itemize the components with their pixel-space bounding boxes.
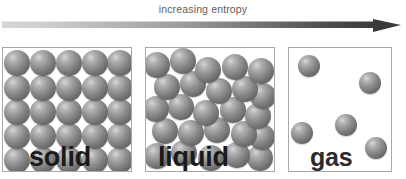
increasing-entropy-arrow [2, 19, 402, 33]
particle-sphere [248, 58, 274, 84]
label-gas: gas [310, 145, 352, 170]
particle-sphere [4, 50, 30, 76]
particle-sphere [365, 137, 387, 159]
particle-sphere [107, 123, 132, 149]
entropy-states-of-matter-figure: increasing entropy solid liquid [0, 0, 406, 179]
particle-sphere [4, 123, 30, 149]
arrow-head [373, 19, 401, 32]
particle-sphere [193, 100, 219, 126]
label-liquid: liquid [158, 144, 229, 171]
particle-sphere [359, 72, 381, 94]
panel-solid: solid [2, 47, 132, 172]
particle-sphere [82, 99, 108, 125]
particle-sphere [82, 75, 108, 101]
particle-sphere [56, 75, 82, 101]
particle-sphere [107, 147, 132, 172]
particle-sphere [335, 114, 357, 136]
label-solid: solid [29, 144, 91, 171]
particle-sphere [4, 99, 30, 125]
particle-sphere [291, 122, 313, 144]
particle-sphere [298, 55, 320, 77]
particle-sphere [4, 75, 30, 101]
particle-sphere [4, 147, 30, 172]
panel-liquid: liquid [145, 47, 275, 172]
particle-sphere [145, 52, 170, 78]
particle-sphere [107, 99, 132, 125]
particle-sphere [107, 75, 132, 101]
arrow-shaft [2, 22, 378, 29]
particle-sphere [56, 99, 82, 125]
particle-sphere [30, 99, 56, 125]
particle-sphere [222, 54, 248, 80]
particle-sphere [30, 75, 56, 101]
increasing-entropy-caption: increasing entropy [0, 3, 406, 15]
particle-sphere [30, 50, 56, 76]
particle-sphere [195, 57, 221, 83]
particle-sphere [170, 48, 196, 74]
panel-gas: gas [288, 47, 392, 172]
particle-sphere [56, 50, 82, 76]
particle-sphere [107, 50, 132, 76]
particle-sphere [82, 50, 108, 76]
